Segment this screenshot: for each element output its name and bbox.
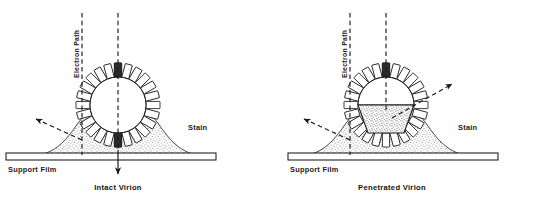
support-film-label: Support Film	[290, 165, 339, 174]
electron-path-label: Electron Path	[341, 30, 348, 78]
figure-root: Electron Path Stain Support Film Intact …	[0, 0, 554, 200]
canvas-background	[0, 0, 554, 200]
stain-label: Stain	[188, 123, 208, 132]
virion-staining-diagram: Electron Path Stain Support Film Intact …	[0, 0, 554, 200]
stain-label: Stain	[458, 123, 478, 132]
electron-path-label: Electron Path	[73, 30, 80, 78]
support-film-label: Support Film	[8, 165, 57, 174]
panel-caption-penetrated: Penetrated Virion	[358, 183, 426, 192]
support-film	[6, 153, 216, 160]
support-film	[288, 153, 498, 160]
panel-caption-intact: Intact Virion	[94, 183, 142, 192]
